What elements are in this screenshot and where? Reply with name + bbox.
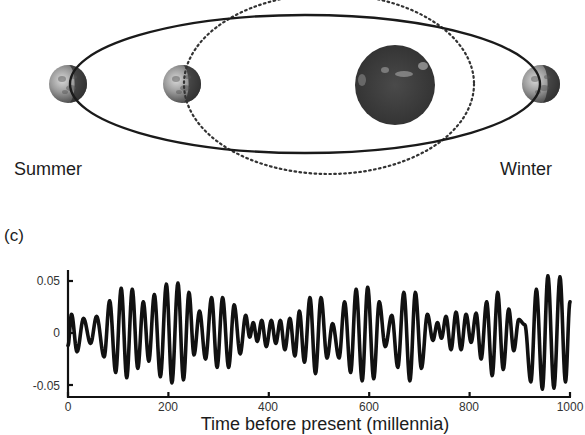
- xtick-label-600: 600: [344, 400, 394, 414]
- sun-icon: [355, 45, 435, 125]
- elliptical-orbit-solid: [70, 15, 540, 153]
- ytick-label-neg0.05: -0.05: [20, 379, 60, 393]
- earth-summer-elliptical-icon: [49, 65, 87, 103]
- ytick-label-0.05: 0.05: [20, 274, 60, 288]
- xtick-label-800: 800: [444, 400, 494, 414]
- orbit-diagram: Summer Winter: [0, 0, 585, 215]
- panel-label-c: (c): [4, 226, 24, 246]
- x-axis-title: Time before present (millennia): [160, 414, 490, 435]
- xtick-label-400: 400: [243, 400, 293, 414]
- ytick-label-0: 0: [20, 326, 60, 340]
- winter-label: Winter: [500, 159, 552, 180]
- precession-line: [68, 276, 570, 389]
- earth-summer-circular-icon: [163, 65, 201, 103]
- xtick-label-0: 0: [43, 400, 93, 414]
- xtick-label-1000: 1000: [545, 400, 585, 414]
- precession-chart: 0.05 0 -0.05 0 200 400 600 800 1000: [0, 255, 585, 429]
- xtick-label-200: 200: [143, 400, 193, 414]
- orbit-svg: [0, 0, 585, 215]
- summer-label: Summer: [14, 159, 82, 180]
